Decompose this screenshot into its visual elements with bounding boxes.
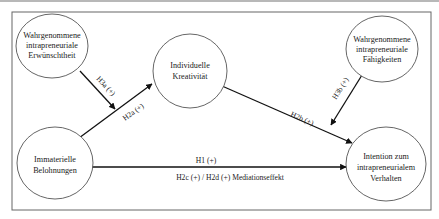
label-h3a: H3a (+): [95, 74, 118, 98]
node-erwuenschtheit: Wahrgenommene intrapreneuriale Erwünscht…: [16, 14, 88, 78]
svg-text:Wahrgenommene: Wahrgenommene: [23, 31, 81, 40]
label-h2cd: H2c (+) / H2d (+) Mediationseffekt: [176, 173, 285, 182]
svg-text:Intention zum: Intention zum: [363, 152, 409, 161]
svg-text:Immaterielle: Immaterielle: [34, 155, 76, 164]
svg-text:intrapreneuriale: intrapreneuriale: [356, 45, 408, 54]
svg-text:Erwünschtheit: Erwünschtheit: [28, 51, 76, 60]
label-h1: H1 (+): [196, 156, 217, 165]
svg-text:Kreativität: Kreativität: [172, 72, 208, 81]
svg-text:Individuelle: Individuelle: [170, 61, 210, 70]
svg-text:Wahrgenommene: Wahrgenommene: [353, 35, 411, 44]
svg-text:intrapreneurialem: intrapreneurialem: [357, 163, 416, 172]
node-kreativitaet: Individuelle Kreativität: [153, 34, 227, 108]
node-belohnungen: Immaterielle Belohnungen: [17, 127, 93, 199]
research-model-diagram: Wahrgenommene intrapreneuriale Erwünscht…: [0, 0, 439, 219]
node-faehigkeiten: Wahrgenommene intrapreneuriale Fähigkeit…: [346, 16, 418, 82]
label-h2b: H2b (+): [289, 110, 315, 128]
svg-text:intrapreneuriale: intrapreneuriale: [26, 41, 78, 50]
node-intention: Intention zum intrapreneurialem Verhalte…: [346, 127, 426, 201]
svg-text:Fähigkeiten: Fähigkeiten: [363, 55, 402, 64]
svg-text:Belohnungen: Belohnungen: [33, 166, 77, 175]
svg-text:Verhalten: Verhalten: [370, 174, 401, 183]
